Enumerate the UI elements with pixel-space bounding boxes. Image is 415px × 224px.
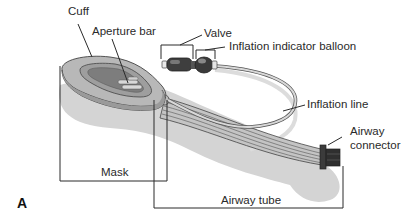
label-valve: Valve	[204, 28, 232, 40]
valve-assembly	[162, 57, 217, 73]
label-airway-connector-line1: Airway	[350, 126, 385, 138]
valve-bracket	[161, 45, 193, 59]
lma-diagram: Cuff Aperture bar Valve Inflation indica…	[0, 0, 415, 224]
label-airway-connector-line2: connector	[350, 140, 401, 152]
airway-connector	[320, 145, 340, 169]
label-inflation-line: Inflation line	[307, 99, 368, 111]
label-aperture-bar: Aperture bar	[92, 26, 156, 38]
cuff-leader	[78, 24, 92, 57]
airway-connector-leader	[328, 137, 342, 145]
label-mask: Mask	[101, 167, 128, 179]
label-airway-tube: Airway tube	[221, 195, 281, 207]
label-cuff: Cuff	[68, 6, 89, 18]
panel-label: A	[17, 195, 27, 211]
label-inflation-indicator-balloon: Inflation indicator balloon	[229, 41, 356, 53]
